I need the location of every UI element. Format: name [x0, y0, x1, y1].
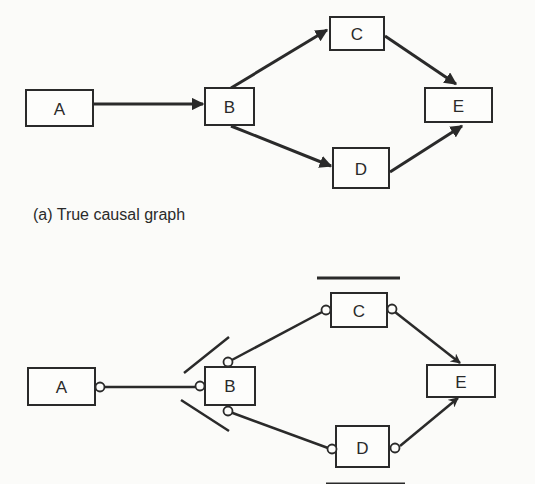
- node-e-bottom: E: [427, 365, 495, 397]
- node-b-bottom: B: [205, 367, 255, 405]
- circle-a-b-at-a: [96, 383, 105, 392]
- edge-b-c: [231, 30, 327, 88]
- circle-a-b-at-b: [196, 382, 205, 391]
- circle-d-e-at-d: [391, 444, 400, 453]
- edge-b-c-pag: [230, 311, 324, 361]
- node-label: C: [351, 25, 363, 44]
- panel-b-edges: [101, 311, 460, 448]
- node-label: B: [224, 98, 235, 117]
- circle-c-e-at-c: [388, 305, 397, 314]
- node-c-bottom: C: [331, 293, 387, 327]
- node-label: C: [353, 302, 365, 321]
- node-label: D: [356, 439, 368, 458]
- edge-b-d-pag: [230, 412, 328, 448]
- circle-b-d-at-d: [328, 445, 337, 454]
- circle-b-c-at-b: [224, 358, 233, 367]
- node-e-top: E: [425, 88, 492, 122]
- node-b-top: B: [205, 88, 254, 125]
- edge-d-e: [390, 126, 462, 172]
- edge-c-e: [385, 36, 456, 84]
- circle-b-c-at-c: [322, 306, 331, 315]
- node-d-top: D: [333, 148, 389, 188]
- node-c-top: C: [330, 17, 384, 50]
- edge-d-e-pag: [400, 398, 458, 446]
- edge-b-d: [231, 126, 331, 166]
- node-label: A: [56, 378, 68, 397]
- node-label: B: [224, 377, 235, 396]
- node-label: E: [453, 97, 464, 116]
- circle-b-d-at-b: [224, 407, 233, 416]
- node-a-top: A: [26, 90, 93, 126]
- node-a-bottom: A: [28, 368, 95, 405]
- node-label: A: [54, 100, 66, 119]
- node-label: D: [355, 160, 367, 179]
- node-d-bottom: D: [336, 426, 389, 467]
- node-label: E: [455, 373, 466, 392]
- caption-panel-a: (a) True causal graph: [33, 206, 185, 224]
- panel-a-edges: [94, 30, 462, 172]
- causal-graph-figure: A B C D E A B C: [0, 0, 535, 484]
- edge-c-e-pag: [395, 312, 460, 363]
